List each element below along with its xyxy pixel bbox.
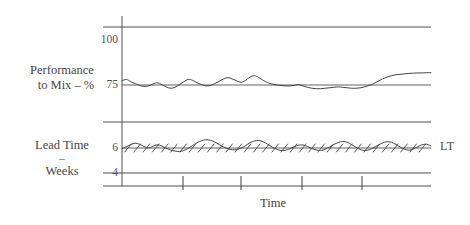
lead-time-axis-label-line2: – <box>14 153 110 164</box>
y-tick-label-100: 100 <box>92 33 118 45</box>
frame-lines <box>103 16 431 186</box>
x-axis-label: Time <box>228 196 318 211</box>
performance-series-line <box>122 73 431 89</box>
chart-canvas <box>0 0 470 225</box>
y-tick-label-4: 4 <box>92 166 118 178</box>
chart-figure: Performance to Mix – % Lead Time – Weeks… <box>0 0 470 225</box>
y-tick-label-6: 6 <box>92 141 118 153</box>
series-label-lt: LT <box>440 139 454 154</box>
y-tick-label-75: 75 <box>92 78 118 90</box>
x-axis-tick-marks <box>183 176 362 190</box>
performance-axis-label-line1: Performance <box>14 63 110 78</box>
